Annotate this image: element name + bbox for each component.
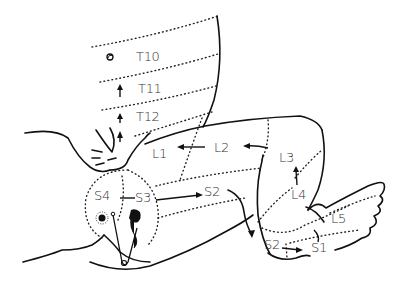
arrowhead-l3 xyxy=(293,166,299,172)
label-l5: L5 xyxy=(331,212,346,225)
label-l2: L2 xyxy=(214,141,229,154)
buttock-lower xyxy=(104,235,150,262)
heel-line xyxy=(286,244,287,258)
heel-contour xyxy=(268,253,310,259)
leg-line-l4 xyxy=(258,188,292,222)
label-s2-foot: S2 xyxy=(264,238,280,251)
dermatome-diagram: T10 T11 T12 L1 L2 L3 L4 L5 S1 S2 S2 S3 S… xyxy=(0,0,407,282)
arrowhead-l2 xyxy=(243,143,250,149)
arrowhead-l1 xyxy=(177,144,184,150)
arrow-s3-s2 xyxy=(156,195,200,200)
body-outline-drawing xyxy=(0,0,407,282)
label-t10: T10 xyxy=(136,50,160,63)
label-t11: T11 xyxy=(138,82,162,95)
label-s3: S3 xyxy=(135,191,151,204)
penis-contour xyxy=(96,128,114,152)
label-l4: L4 xyxy=(291,188,306,201)
label-s1: S1 xyxy=(311,241,327,254)
arrowhead-t11 xyxy=(117,113,123,119)
trunk-contour xyxy=(203,16,220,127)
groin-right-contour xyxy=(110,133,150,170)
arrowhead-t10 xyxy=(117,84,123,90)
knee-contour xyxy=(308,130,324,210)
knee-back-contour xyxy=(260,155,263,170)
anus-icon xyxy=(96,212,108,224)
arrowhead-s2 xyxy=(196,192,203,198)
arrow-l4-l3 xyxy=(296,170,297,185)
arrowhead-s1 xyxy=(296,247,303,253)
arrowhead-buttock xyxy=(248,230,255,238)
arrowhead-t12 xyxy=(117,131,123,138)
label-l3: L3 xyxy=(279,151,294,164)
thigh-line-2 xyxy=(158,198,245,218)
leg-line-l3l4 xyxy=(295,150,322,178)
dermatome-line-t9 xyxy=(92,16,218,47)
thigh-top-contour xyxy=(145,116,322,144)
safety-pin-icon xyxy=(111,209,140,265)
label-l1: L1 xyxy=(152,147,167,160)
umbilicus-icon xyxy=(107,54,113,60)
l2-boundary xyxy=(262,120,268,160)
left-leg-contour xyxy=(23,235,104,262)
label-s2-thigh: S2 xyxy=(204,185,220,198)
label-t12: T12 xyxy=(136,110,160,123)
label-s4: S4 xyxy=(94,189,110,202)
